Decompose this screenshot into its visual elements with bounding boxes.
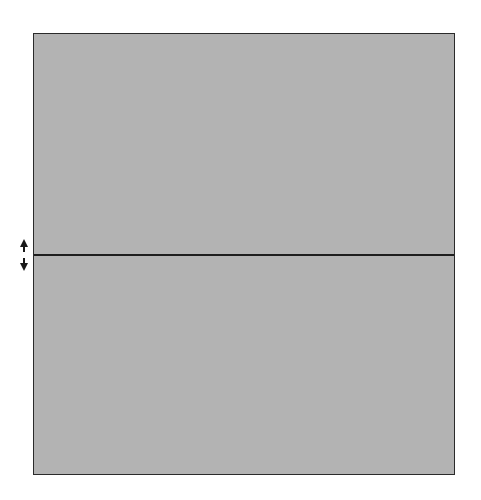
top-pane: [34, 34, 454, 254]
resize-handle[interactable]: [18, 238, 30, 272]
bottom-pane: [34, 256, 454, 474]
split-pane-container: [33, 33, 455, 475]
vertical-double-arrow-icon: [18, 238, 30, 272]
